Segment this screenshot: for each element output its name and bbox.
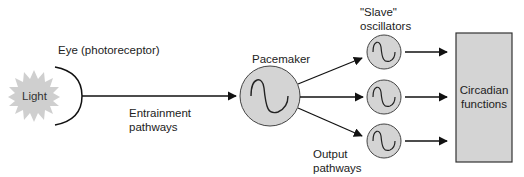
eye-arc — [55, 67, 82, 125]
entrainment-label-line1: Entrainment — [129, 106, 191, 120]
output-arrow-bottom — [298, 108, 362, 136]
slave-oscillator-2 — [367, 80, 401, 114]
output-label-line2: pathways — [313, 161, 362, 175]
circadian-label-line1: Circadian — [456, 83, 512, 97]
slave-oscillator-3 — [367, 124, 401, 158]
output-pathways-label: Output pathways — [313, 147, 362, 175]
slave-oscillator-1 — [367, 35, 401, 69]
entrainment-label-line2: pathways — [129, 120, 191, 134]
light-label: Light — [22, 89, 47, 103]
slave-oscillators-label: "Slave" oscillators — [360, 5, 411, 33]
slave-label-line1: "Slave" — [360, 5, 411, 19]
entrainment-label: Entrainment pathways — [129, 106, 191, 134]
circadian-label-line2: functions — [456, 97, 512, 111]
pacemaker-label: Pacemaker — [252, 52, 310, 66]
slave-label-line2: oscillators — [360, 19, 411, 33]
output-label-line1: Output — [313, 147, 362, 161]
pacemaker-node — [240, 66, 300, 126]
circadian-functions-label: Circadian functions — [456, 83, 512, 111]
eye-label: Eye (photoreceptor) — [58, 43, 160, 57]
circadian-diagram — [0, 0, 524, 177]
